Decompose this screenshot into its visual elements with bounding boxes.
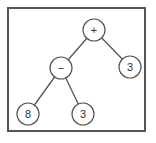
node-label: 3	[127, 61, 133, 73]
edges	[28, 30, 130, 114]
node-label: −	[58, 62, 64, 74]
node-8: 8	[17, 103, 39, 125]
node-bottom-3: 3	[72, 103, 94, 125]
node-right-3: 3	[119, 56, 141, 78]
node-minus: −	[50, 57, 72, 79]
node-label: +	[91, 24, 97, 36]
expression-tree: + − 3 8 3	[0, 0, 156, 143]
node-label: 8	[25, 108, 31, 120]
node-root-plus: +	[83, 19, 105, 41]
node-label: 3	[80, 108, 86, 120]
